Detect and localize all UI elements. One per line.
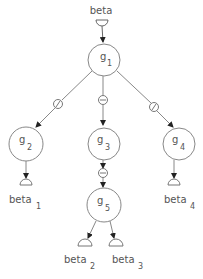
minus-circle-icon [99,169,108,178]
output-symbol-beta2 [78,239,92,246]
svg-text:2: 2 [27,143,32,152]
edge-g1-marker4 [117,71,151,103]
output-label-beta4: beta [164,194,187,205]
node-g5: g 5 [87,188,121,222]
minus-circle-icon [99,96,108,105]
node-g3: g 3 [88,128,120,160]
tree-diagram: beta g 1 g 2 g 3 g 4 [0,0,203,279]
slash-circle-icon [54,100,63,109]
edge-g1-g2 [36,108,55,127]
edge-g1-marker2 [62,71,92,100]
root-input-symbol [96,20,108,26]
edge-beta-g1 [102,26,103,42]
slash-circle-icon [150,103,159,112]
svg-text:g: g [172,134,178,145]
output-symbol-beta3 [109,239,123,246]
svg-text:3: 3 [105,143,110,152]
svg-text:g: g [97,195,103,206]
svg-text:4: 4 [180,143,185,152]
svg-text:1: 1 [107,59,112,68]
edge-g5-beta2 [88,221,96,238]
edge-g1-g4 [157,111,173,127]
svg-text:g: g [100,51,106,62]
svg-text:g: g [97,134,103,145]
node-g1: g 1 [88,44,120,76]
node-g2: g 2 [9,127,43,161]
svg-text:g: g [19,134,25,145]
svg-text:5: 5 [105,204,110,213]
edge-g5-beta3 [110,221,114,238]
output-sub-beta4: 4 [190,202,195,211]
output-sub-beta2: 2 [90,262,95,271]
output-label-beta2: beta [64,254,87,265]
output-label-beta3: beta [112,254,135,265]
output-sub-beta1: 1 [36,202,41,211]
root-input-label: beta [90,5,113,16]
output-symbol-beta4 [168,179,180,185]
node-g4: g 4 [163,128,195,160]
output-label-beta1: beta [9,194,32,205]
output-sub-beta3: 3 [138,262,143,271]
output-symbol-beta1 [20,179,32,185]
